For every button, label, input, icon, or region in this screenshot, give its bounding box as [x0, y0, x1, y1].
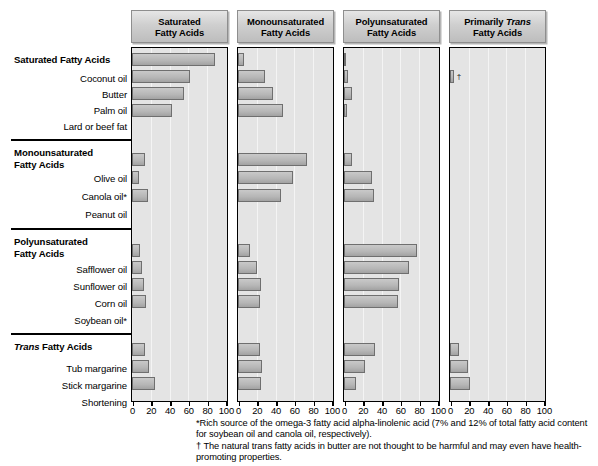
panel-monounsaturated-plot — [237, 47, 334, 402]
bar-saturated-safflower-oil — [132, 244, 140, 257]
bar-polyunsaturated-safflower-oil — [344, 244, 417, 257]
bar-saturated-lard-or-beef-fat — [132, 104, 172, 117]
bar-monounsaturated-sunflower-oil — [238, 261, 257, 274]
panel-polyunsaturated-plot — [343, 47, 440, 402]
dagger-marker-butter: † — [457, 73, 461, 81]
gridline-60 — [188, 48, 189, 401]
panel-polyunsaturated-plot-area — [344, 48, 439, 401]
bar-saturated-corn-oil — [132, 278, 144, 291]
gridline-80 — [419, 48, 420, 401]
bar-saturated-palm-oil — [132, 87, 184, 100]
gridline-80 — [207, 48, 208, 401]
bar-polyunsaturated-stick-margarine — [344, 360, 365, 373]
footnote-dagger: † The natural trans fatty acids in butte… — [196, 441, 596, 464]
bar-saturated-shortening — [132, 377, 155, 390]
row-label-palm-oil: Palm oil — [3, 105, 127, 116]
bar-monounsaturated-shortening — [238, 377, 261, 390]
footnotes: *Rich source of the omega-3 fatty acid a… — [196, 418, 596, 464]
row-label-corn-oil: Corn oil — [3, 298, 127, 309]
bar-monounsaturated-olive-oil — [238, 153, 307, 166]
panel-polyunsaturated-x-axis: 020406080100 — [343, 402, 440, 416]
panel-trans-x-axis: 020406080100 — [449, 402, 546, 416]
panel-saturated-plot-area — [132, 48, 227, 401]
bar-polyunsaturated-sunflower-oil — [344, 261, 409, 274]
bar-monounsaturated-coconut-oil — [238, 53, 244, 66]
divider-poly-trans — [11, 333, 131, 335]
panel-saturated-plot — [131, 47, 228, 402]
bar-monounsaturated-corn-oil — [238, 278, 261, 291]
panel-monounsaturated-x-axis: 020406080100 — [237, 402, 334, 416]
bar-polyunsaturated-corn-oil — [344, 278, 399, 291]
bar-monounsaturated-butter — [238, 70, 265, 83]
gridline-60 — [400, 48, 401, 401]
bar-polyunsaturated-olive-oil — [344, 153, 352, 166]
bar-monounsaturated-peanut-oil — [238, 189, 281, 202]
panel-saturated-title: SaturatedFatty Acids — [131, 10, 228, 43]
bar-saturated-olive-oil — [132, 153, 145, 166]
row-label-coconut-oil: Coconut oil — [3, 73, 127, 84]
bar-polyunsaturated-peanut-oil — [344, 189, 374, 202]
row-label-lard-or-beef-fat: Lard or beef fat — [3, 121, 127, 132]
panel-saturated-x-axis: 020406080100 — [131, 402, 228, 416]
bar-polyunsaturated-lard-or-beef-fat — [344, 104, 347, 117]
bar-polyunsaturated-soybean-oil — [344, 295, 398, 308]
bar-monounsaturated-palm-oil — [238, 87, 273, 100]
gridline-80 — [313, 48, 314, 401]
bar-saturated-coconut-oil — [132, 53, 215, 66]
row-label-canola-oil: Canola oil* — [3, 191, 127, 202]
row-label-soybean-oil: Soybean oil* — [3, 315, 127, 326]
bar-saturated-stick-margarine — [132, 360, 149, 373]
bar-trans-shortening — [450, 377, 470, 390]
group-heading-trans-rest: Fatty Acids — [39, 341, 92, 352]
bar-polyunsaturated-butter — [344, 70, 348, 83]
bar-polyunsaturated-canola-oil — [344, 171, 372, 184]
bar-saturated-sunflower-oil — [132, 261, 142, 274]
gridline-20 — [151, 48, 152, 401]
bar-trans-butter — [450, 70, 454, 83]
row-label-sunflower-oil: Sunflower oil — [3, 281, 127, 292]
fatty-acid-chart: Saturated Fatty Acids Coconut oil Butter… — [0, 0, 598, 466]
x-tick-label-100: 100 — [533, 405, 555, 416]
bar-monounsaturated-tub-margarine — [238, 343, 260, 356]
gridline-80 — [525, 48, 526, 401]
gridline-60 — [294, 48, 295, 401]
panel-polyunsaturated-title: PolyunsaturatedFatty Acids — [343, 10, 440, 43]
gridline-60 — [506, 48, 507, 401]
bar-saturated-tub-margarine — [132, 343, 145, 356]
bar-monounsaturated-safflower-oil — [238, 244, 250, 257]
bar-trans-tub-margarine — [450, 343, 459, 356]
bar-monounsaturated-lard-or-beef-fat — [238, 104, 283, 117]
bar-monounsaturated-canola-oil — [238, 171, 293, 184]
bar-trans-stick-margarine — [450, 360, 468, 373]
bar-saturated-canola-oil — [132, 171, 139, 184]
row-label-column: Saturated Fatty Acids Coconut oil Butter… — [0, 0, 131, 404]
row-label-butter: Butter — [3, 89, 127, 100]
group-heading-saturated: Saturated Fatty Acids — [0, 54, 126, 66]
group-heading-polyunsaturated: Polyunsaturated Fatty Acids — [0, 236, 126, 259]
bar-saturated-butter — [132, 70, 190, 83]
group-heading-trans: Trans Fatty Acids — [0, 341, 126, 353]
row-label-shortening: Shortening — [3, 397, 127, 408]
divider-mono-poly — [11, 228, 131, 230]
bar-polyunsaturated-tub-margarine — [344, 343, 375, 356]
bar-monounsaturated-soybean-oil — [238, 295, 260, 308]
bar-polyunsaturated-shortening — [344, 377, 356, 390]
row-label-olive-oil: Olive oil — [3, 173, 127, 184]
group-heading-monounsaturated: Monounsaturated Fatty Acids — [0, 147, 126, 170]
gridline-40 — [488, 48, 489, 401]
row-label-stick-margarine: Stick margarine — [3, 380, 127, 391]
gridline-40 — [382, 48, 383, 401]
bar-polyunsaturated-coconut-oil — [344, 53, 346, 66]
row-label-peanut-oil: Peanut oil — [3, 209, 127, 220]
bar-saturated-soybean-oil — [132, 295, 146, 308]
bar-polyunsaturated-palm-oil — [344, 87, 352, 100]
panel-trans-plot-area: † — [450, 48, 545, 401]
gridline-40 — [170, 48, 171, 401]
panel-trans-plot: † — [449, 47, 546, 402]
gridline-40 — [276, 48, 277, 401]
panel-trans-title: Primarily TransFatty Acids — [449, 10, 546, 43]
gridline-20 — [469, 48, 470, 401]
row-label-tub-margarine: Tub margarine — [3, 363, 127, 374]
bar-monounsaturated-stick-margarine — [238, 360, 262, 373]
footnote-asterisk: *Rich source of the omega-3 fatty acid a… — [196, 418, 596, 441]
